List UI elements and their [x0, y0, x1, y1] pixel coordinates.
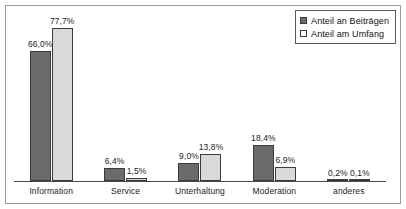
category-label: Service: [88, 186, 162, 196]
chart-legend: Anteil an Beiträgen Anteil am Umfang: [295, 10, 396, 44]
bar-value-label: 1,5%: [127, 166, 147, 176]
bar-group-bars: 9,0%13,8%: [163, 14, 237, 181]
category-label: anderes: [312, 186, 386, 196]
bar[interactable]: [52, 28, 73, 181]
bar-column: 6,4%: [104, 14, 125, 181]
legend-item-0[interactable]: Anteil an Beiträgen: [300, 14, 389, 27]
bar[interactable]: [30, 51, 51, 181]
light-gray-swatch-icon: [300, 30, 307, 37]
bar-column: 77,7%: [52, 14, 73, 181]
bar-chart-figure: 66,0%77,7%6,4%1,5%9,0%13,8%18,4%6,9%0,2%…: [0, 0, 406, 209]
bar-column: 18,4%: [253, 14, 274, 181]
bar-column: 13,8%: [200, 14, 221, 181]
category-label: Unterhaltung: [163, 186, 237, 196]
bar[interactable]: [104, 168, 125, 181]
bar-group: 6,4%1,5%: [88, 14, 162, 181]
bar-group: 66,0%77,7%: [14, 14, 88, 181]
bar-value-label: 6,9%: [275, 155, 295, 165]
bar-group: 9,0%13,8%: [163, 14, 237, 181]
bar-group-bars: 6,4%1,5%: [88, 14, 162, 181]
bar-value-label: 18,4%: [251, 133, 276, 143]
bar-value-label: 0,1%: [350, 168, 370, 178]
bar-value-label: 66,0%: [28, 39, 53, 49]
legend-item-label: Anteil an Beiträgen: [311, 16, 389, 26]
bar[interactable]: [327, 179, 348, 181]
bar-column: 6,9%: [275, 14, 296, 181]
bar-column: 1,5%: [126, 14, 147, 181]
bar-value-label: 9,0%: [179, 151, 199, 161]
bar[interactable]: [275, 167, 296, 181]
bar-value-label: 13,8%: [199, 142, 224, 152]
bar-value-label: 0,2%: [328, 168, 348, 178]
category-axis-line: [14, 181, 386, 182]
legend-item-label: Anteil am Umfang: [311, 29, 384, 39]
bar-column: 9,0%: [178, 14, 199, 181]
dark-gray-swatch-icon: [300, 17, 307, 24]
bar-column: 66,0%: [30, 14, 51, 181]
legend-item-1[interactable]: Anteil am Umfang: [300, 27, 389, 40]
bar-value-label: 77,7%: [50, 16, 75, 26]
bar[interactable]: [126, 178, 147, 181]
category-label: Moderation: [237, 186, 311, 196]
bar-group-bars: 66,0%77,7%: [14, 14, 88, 181]
category-label: Information: [14, 186, 88, 196]
bar[interactable]: [200, 154, 221, 181]
bar[interactable]: [253, 145, 274, 181]
bar[interactable]: [349, 179, 370, 181]
bar[interactable]: [178, 163, 199, 181]
bar-value-label: 6,4%: [105, 156, 125, 166]
